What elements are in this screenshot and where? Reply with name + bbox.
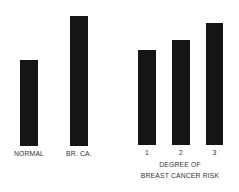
label-risk-3: 3 — [207, 148, 221, 157]
label-normal: NORMAL — [8, 149, 51, 158]
bar-risk-3 — [206, 23, 223, 145]
label-breast-cancer: BR. CA. — [62, 149, 96, 158]
label-risk-1: 1 — [139, 148, 154, 157]
label-risk-2: 2 — [173, 148, 188, 157]
x-axis-title-line2: BREAST CANCER RISK — [129, 171, 231, 180]
bar-normal — [20, 60, 38, 146]
bar-risk-2 — [172, 40, 190, 145]
x-axis-title-line1: DEGREE OF — [146, 160, 214, 169]
bar-breast-cancer — [70, 16, 88, 146]
bar-risk-1 — [138, 50, 156, 145]
